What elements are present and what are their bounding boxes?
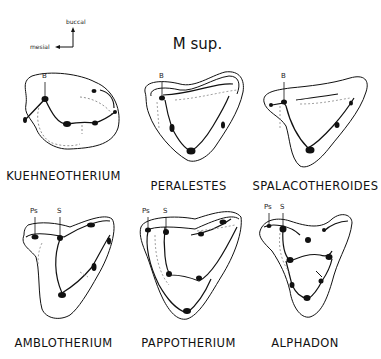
- taxon-label: AMBLOTHERIUM: [0, 336, 127, 350]
- taxon-label: SPALACOTHEROIDES: [250, 179, 381, 193]
- panel-pappotherium: Ps S PAPPOTHERIUM: [125, 205, 252, 355]
- molar-outline-icon: [0, 62, 127, 182]
- cusp-label-b: B: [281, 72, 286, 80]
- cusp-label-b: B: [159, 72, 164, 80]
- panel-kuehneotherium: B KUEHNEOTHERIUM: [0, 62, 127, 212]
- taxon-label: KUEHNEOTHERIUM: [0, 169, 127, 183]
- panel-peralestes: B PERALESTES: [125, 62, 252, 212]
- panel-spalacotheroides: B SPALACOTHEROIDES: [250, 62, 377, 212]
- molar-outline-icon: [125, 205, 252, 330]
- taxon-label: ALPHADON: [250, 336, 360, 350]
- molar-outline-icon: [250, 62, 381, 182]
- taxon-label: PAPPOTHERIUM: [125, 336, 252, 350]
- cusp-label-s: S: [57, 207, 61, 215]
- buccal-label: buccal: [66, 18, 86, 25]
- panel-amblotherium: Ps S AMBLOTHERIUM: [0, 205, 127, 355]
- cusp-label-ps: Ps: [30, 207, 38, 215]
- cusp-label-ps: Ps: [264, 203, 272, 211]
- cusp-label-b: B: [42, 72, 47, 80]
- cusp-label-ps: Ps: [142, 207, 150, 215]
- figure-title: M sup.: [0, 35, 381, 53]
- molar-outline-icon: [250, 205, 381, 330]
- cusp-label-s: S: [163, 207, 167, 215]
- cusp-label-s: S: [280, 203, 284, 211]
- molar-outline-icon: [125, 62, 252, 182]
- molar-outline-icon: [0, 205, 127, 330]
- taxon-label: PERALESTES: [125, 179, 252, 193]
- panel-alphadon: Ps S ALPHADON: [250, 205, 377, 355]
